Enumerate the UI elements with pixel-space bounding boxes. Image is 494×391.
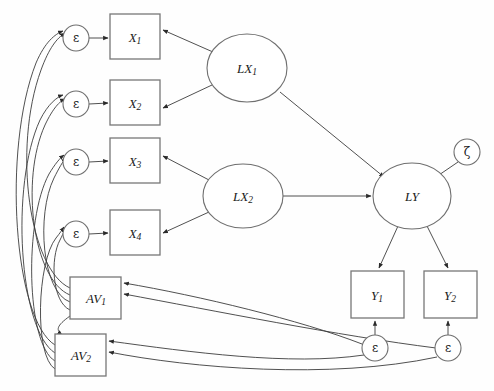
node-lx1[interactable]: LX1 <box>207 34 287 102</box>
node-zeta-ly[interactable]: ζ <box>454 139 480 165</box>
path-lx2-to-x3 <box>163 156 209 180</box>
path-lx1-to-x1 <box>163 30 213 52</box>
node-eps-x3[interactable]: ε <box>63 149 89 175</box>
eps-x2-symbol: ε <box>73 97 79 111</box>
node-y2-sub: 2 <box>451 294 456 304</box>
path-lx1-to-ly <box>280 92 384 177</box>
node-av2[interactable]: AV2 <box>55 334 106 376</box>
path-eps-x2-to-x2 <box>89 103 108 104</box>
path-ly-to-y1 <box>379 226 398 268</box>
node-y1[interactable]: Y1 <box>351 271 404 318</box>
zeta-ly-symbol: ζ <box>464 145 471 159</box>
node-av2-sub: 2 <box>86 354 91 364</box>
node-lx1-base: LX <box>236 61 253 76</box>
node-x1-sub: 1 <box>137 36 142 46</box>
node-x3[interactable]: X3 <box>110 138 160 183</box>
node-eps-x2[interactable]: ε <box>63 91 89 117</box>
node-av1[interactable]: AV1 <box>70 277 121 319</box>
paths-latent-to-indicators <box>163 30 448 268</box>
paths-eps-to-x <box>89 38 108 234</box>
path-eps-y2-to-av2 <box>109 352 437 370</box>
eps-y1-symbol: ε <box>372 341 378 355</box>
path-eps-x3-to-x3 <box>89 161 108 162</box>
path-av1-to-av2 <box>58 316 70 335</box>
node-y2[interactable]: Y2 <box>424 271 477 318</box>
curved-paths-av-to-x-errors <box>16 31 70 369</box>
node-lx2-sub: 2 <box>248 195 253 205</box>
latent-variable-nodes: LX1 LX2 LY <box>203 34 451 229</box>
node-eps-y1[interactable]: ε <box>362 335 388 361</box>
eps-x3-symbol: ε <box>73 155 79 169</box>
node-y1-sub: 1 <box>378 294 383 304</box>
path-lx2-to-x4 <box>163 212 209 233</box>
path-eps-y1-to-av2 <box>109 341 364 359</box>
node-x2-sub: 2 <box>137 102 142 112</box>
node-lx2-base: LX <box>232 189 249 204</box>
node-ly-base: LY <box>404 189 421 204</box>
node-eps-x4[interactable]: ε <box>63 221 89 247</box>
path-lx1-to-x2 <box>163 85 212 108</box>
eps-x1-symbol: ε <box>73 31 79 45</box>
eps-x4-symbol: ε <box>73 227 79 241</box>
paths-eps-to-y <box>375 321 448 335</box>
node-eps-x1[interactable]: ε <box>63 25 89 51</box>
node-ly[interactable]: LY <box>373 163 451 229</box>
node-eps-y2[interactable]: ε <box>435 335 461 361</box>
node-x3-sub: 3 <box>136 160 142 170</box>
sem-path-diagram: X1 X2 X3 X4 <box>0 0 494 391</box>
node-lx2[interactable]: LX2 <box>203 164 283 228</box>
node-lx1-sub: 1 <box>252 67 257 77</box>
node-x1[interactable]: X1 <box>110 14 160 59</box>
eps-y2-symbol: ε <box>445 341 451 355</box>
node-x4-sub: 4 <box>137 232 142 242</box>
path-av1-to-eps-x2 <box>32 99 70 295</box>
path-av2-to-eps-x3 <box>32 155 64 361</box>
path-eps-y1-to-av1 <box>124 283 362 344</box>
node-av1-sub: 1 <box>101 297 106 307</box>
diagram-canvas: X1 X2 X3 X4 <box>0 0 494 391</box>
path-av2-to-eps-x1 <box>16 31 63 345</box>
path-ly-to-y2 <box>427 226 448 268</box>
node-x2[interactable]: X2 <box>110 80 160 125</box>
path-eps-x4-to-x4 <box>89 233 108 234</box>
node-x4[interactable]: X4 <box>110 210 160 255</box>
